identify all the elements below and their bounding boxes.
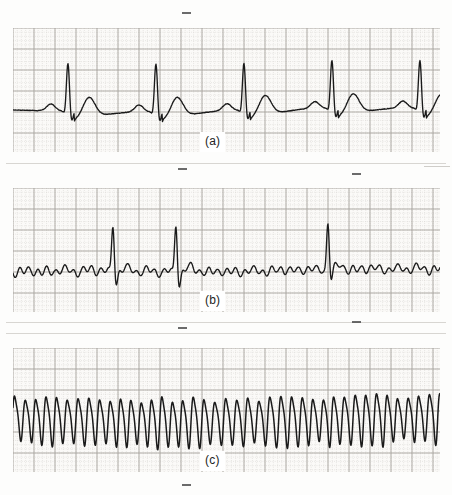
tick-b-right — [352, 321, 361, 323]
panel-b-trace — [13, 224, 440, 287]
ecg-figure: (a)(b)(c) — [0, 0, 452, 495]
panel-c-caption: (c) — [200, 451, 225, 471]
rule-below-a — [6, 163, 446, 164]
tick-c-bottom — [182, 484, 191, 486]
page-edge-right-top — [424, 166, 450, 167]
panel-b-caption: (b) — [200, 291, 225, 311]
tick-a-bottom — [178, 168, 187, 170]
rule-above-c — [6, 333, 446, 334]
tick-b-bottom — [178, 327, 187, 329]
tick-top — [182, 12, 191, 14]
panel-b — [13, 188, 440, 312]
panel-c-trace — [13, 394, 440, 450]
panel-b-canvas — [13, 188, 440, 312]
panel-a-canvas — [13, 28, 440, 152]
tick-a-right — [352, 173, 361, 175]
panel-c — [13, 348, 440, 472]
panel-c-canvas — [13, 348, 440, 472]
rule-below-b — [6, 322, 446, 323]
panel-a — [13, 28, 440, 152]
panel-a-caption: (a) — [200, 132, 225, 152]
